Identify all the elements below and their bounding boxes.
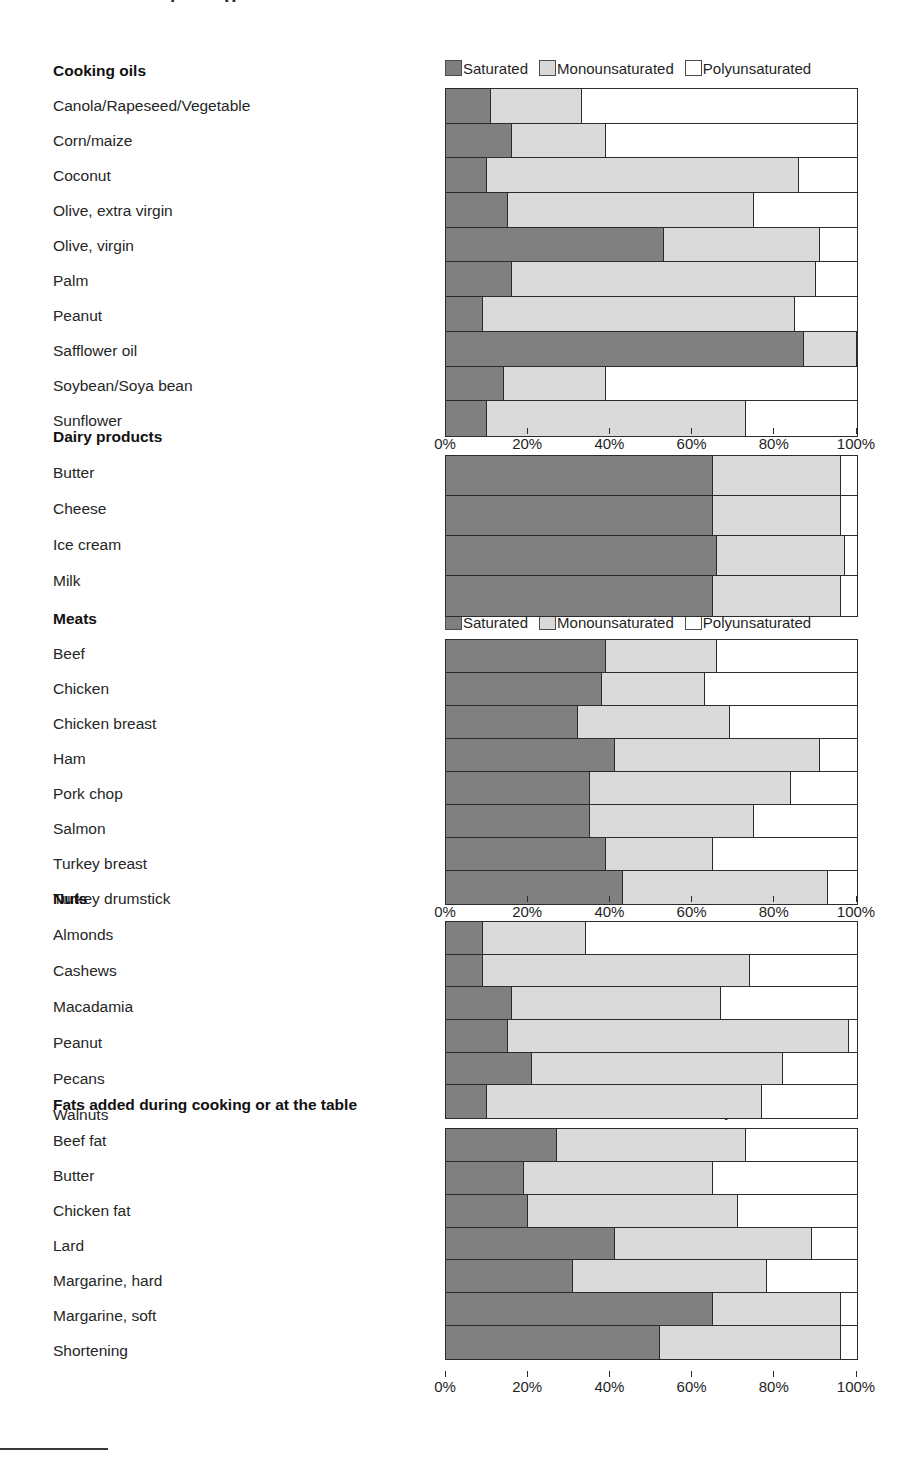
bar-segment-saturated bbox=[446, 262, 512, 296]
bar-row bbox=[446, 1260, 857, 1293]
legend-label-monounsaturated: Monounsaturated bbox=[557, 60, 674, 77]
bar-segment-monounsaturated bbox=[660, 1326, 841, 1359]
bar-row bbox=[446, 772, 857, 805]
bar-segment-polyunsaturated bbox=[738, 1195, 857, 1227]
bar-segment-polyunsaturated bbox=[754, 805, 857, 837]
bar-row bbox=[446, 739, 857, 772]
footer-rule bbox=[0, 1448, 108, 1450]
legend-swatch-saturated-icon bbox=[445, 60, 462, 76]
bar-segment-monounsaturated bbox=[508, 193, 755, 227]
bar-segment-saturated bbox=[446, 1162, 524, 1194]
bar-segment-monounsaturated bbox=[487, 158, 799, 192]
bar-segment-monounsaturated bbox=[512, 987, 722, 1019]
bar-row bbox=[446, 332, 857, 367]
axis-tick bbox=[856, 1371, 857, 1377]
plot-area-cooking-oils bbox=[445, 88, 858, 437]
bar-segment-monounsaturated bbox=[590, 772, 791, 804]
axis-tick-label: 80% bbox=[759, 1378, 789, 1395]
axis-tick-label: 100% bbox=[837, 903, 875, 920]
bar-row bbox=[446, 1326, 857, 1359]
bar-row bbox=[446, 838, 857, 871]
bar-segment-monounsaturated bbox=[487, 1085, 762, 1118]
bar-segment-saturated bbox=[446, 955, 483, 987]
axis-tick bbox=[773, 1371, 774, 1377]
axis-tick bbox=[773, 428, 774, 434]
bar-segment-polyunsaturated bbox=[767, 1260, 857, 1292]
axis-tick-label: 60% bbox=[677, 435, 707, 452]
bar-segment-saturated bbox=[446, 1195, 528, 1227]
bar-segment-monounsaturated bbox=[602, 673, 705, 705]
legend-item-monounsaturated: Monounsaturated bbox=[539, 60, 674, 77]
bar-segment-saturated bbox=[446, 706, 578, 738]
legend-item-polyunsaturated: Polyunsaturated bbox=[685, 60, 811, 77]
bar-row bbox=[446, 1129, 857, 1162]
axis-tick bbox=[445, 428, 446, 434]
bar-segment-monounsaturated bbox=[491, 89, 581, 123]
axis-tick bbox=[445, 1371, 446, 1377]
bar-segment-polyunsaturated bbox=[820, 228, 857, 262]
bar-segment-saturated bbox=[446, 332, 804, 366]
axis-tick-label: 40% bbox=[594, 903, 624, 920]
bar-segment-polyunsaturated bbox=[841, 496, 857, 535]
bar-segment-saturated bbox=[446, 673, 602, 705]
bar-segment-saturated bbox=[446, 1053, 532, 1085]
axis-tick bbox=[691, 896, 692, 902]
axis-tick bbox=[609, 896, 610, 902]
chart-column: SaturatedMonounsaturatedPolyunsaturatedS… bbox=[0, 0, 921, 1465]
legend-swatch-monounsaturated-icon bbox=[539, 60, 556, 76]
bar-segment-monounsaturated bbox=[590, 805, 754, 837]
bar-segment-saturated bbox=[446, 1020, 508, 1052]
axis-tick bbox=[527, 428, 528, 434]
axis-tick-label: 80% bbox=[759, 435, 789, 452]
bar-segment-monounsaturated bbox=[717, 536, 844, 575]
bar-row bbox=[446, 987, 857, 1020]
bar-row bbox=[446, 496, 857, 536]
axis-tick-label: 100% bbox=[837, 435, 875, 452]
bar-segment-monounsaturated bbox=[557, 1129, 746, 1161]
axis-tick bbox=[609, 428, 610, 434]
axis-tick-label: 20% bbox=[512, 903, 542, 920]
bar-segment-polyunsaturated bbox=[713, 1162, 857, 1194]
bar-segment-polyunsaturated bbox=[746, 1129, 857, 1161]
plot-area-dairy-products bbox=[445, 455, 858, 617]
legend-label-saturated: Saturated bbox=[463, 60, 528, 77]
bar-segment-monounsaturated bbox=[804, 332, 857, 366]
bar-segment-polyunsaturated bbox=[582, 89, 857, 123]
bar-segment-saturated bbox=[446, 1228, 615, 1260]
bar-row bbox=[446, 228, 857, 263]
bar-segment-polyunsaturated bbox=[762, 1085, 857, 1118]
bar-segment-monounsaturated bbox=[615, 1228, 812, 1260]
bar-row bbox=[446, 1293, 857, 1326]
bar-segment-monounsaturated bbox=[664, 228, 820, 262]
bar-segment-saturated bbox=[446, 739, 615, 771]
bar-segment-saturated bbox=[446, 1129, 557, 1161]
bar-segment-saturated bbox=[446, 987, 512, 1019]
x-axis-4: 0%20%40%60%80%100% bbox=[445, 1371, 856, 1399]
bar-segment-saturated bbox=[446, 496, 713, 535]
bar-segment-monounsaturated bbox=[578, 706, 730, 738]
bar-segment-saturated bbox=[446, 158, 487, 192]
bar-segment-saturated bbox=[446, 576, 713, 616]
legend-swatch-polyunsaturated-icon bbox=[685, 60, 702, 76]
bar-segment-polyunsaturated bbox=[705, 673, 857, 705]
bar-row bbox=[446, 673, 857, 706]
bar-row bbox=[446, 158, 857, 193]
bar-segment-polyunsaturated bbox=[820, 739, 857, 771]
bar-segment-polyunsaturated bbox=[586, 922, 857, 954]
axis-tick bbox=[856, 896, 857, 902]
bar-row bbox=[446, 297, 857, 332]
bar-segment-monounsaturated bbox=[512, 124, 607, 158]
axis-tick-label: 60% bbox=[677, 903, 707, 920]
bar-row bbox=[446, 640, 857, 673]
axis-tick-label: 0% bbox=[434, 1378, 456, 1395]
legend-item-saturated: Saturated bbox=[445, 60, 528, 77]
bar-segment-monounsaturated bbox=[512, 262, 816, 296]
bar-row bbox=[446, 955, 857, 988]
bar-segment-saturated bbox=[446, 1260, 573, 1292]
bar-segment-polyunsaturated bbox=[730, 706, 857, 738]
axis-tick-label: 80% bbox=[759, 903, 789, 920]
bar-segment-saturated bbox=[446, 124, 512, 158]
bar-row bbox=[446, 193, 857, 228]
bar-segment-polyunsaturated bbox=[849, 1020, 857, 1052]
bar-segment-polyunsaturated bbox=[783, 1053, 857, 1085]
